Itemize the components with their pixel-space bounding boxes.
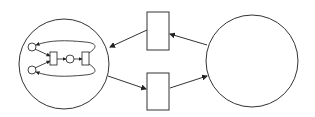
arc-top-to-left <box>110 30 147 47</box>
subnet-transition-left <box>50 52 57 65</box>
top-transition <box>147 12 169 50</box>
left-place <box>19 19 109 109</box>
subnet-place-bottom <box>28 66 36 74</box>
subnet-place-top <box>28 43 36 51</box>
petri-net-diagram <box>0 0 315 117</box>
subnet-transition-right <box>82 52 89 65</box>
subnet <box>28 41 95 76</box>
arc-bottom-to-right <box>170 76 207 88</box>
arc-right-to-top <box>170 34 207 45</box>
right-place <box>206 15 298 107</box>
subnet-place-middle <box>66 55 74 63</box>
bottom-transition <box>147 73 169 110</box>
arc-left-to-bottom <box>108 76 146 89</box>
